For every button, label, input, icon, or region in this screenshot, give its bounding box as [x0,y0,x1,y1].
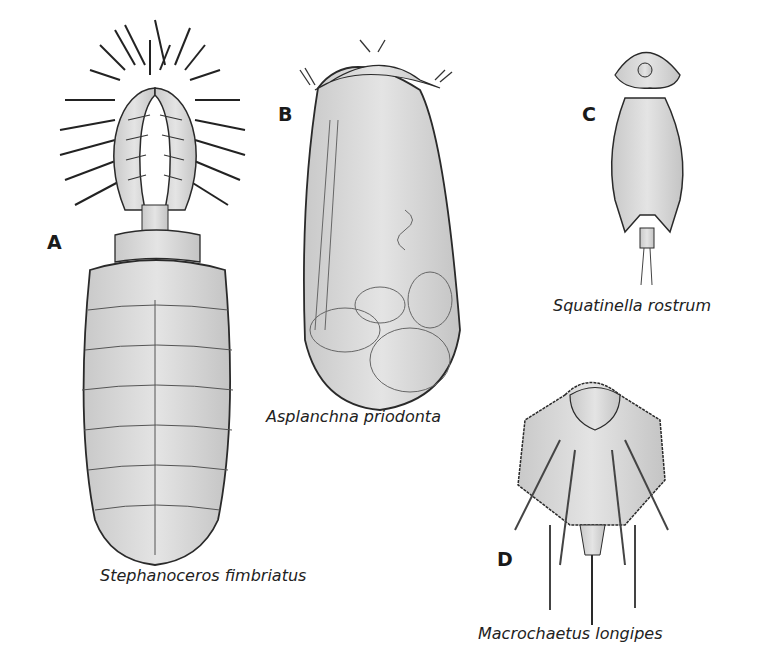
squatinella-illustration [612,53,683,286]
stephanoceros-illustration [60,20,245,565]
caption-asplanchna: Asplanchna priodonta [266,407,441,426]
panel-label-b: B [278,103,292,125]
asplanchna-illustration [300,40,460,410]
panel-label-c: C [582,103,596,125]
caption-macrochaetus: Macrochaetus longipes [478,624,663,643]
macrochaetus-illustration [515,383,668,626]
panel-label-d: D [497,548,513,570]
caption-squatinella: Squatinella rostrum [553,296,711,315]
panel-label-a: A [47,231,62,253]
caption-stephanoceros: Stephanoceros fimbriatus [100,566,306,585]
